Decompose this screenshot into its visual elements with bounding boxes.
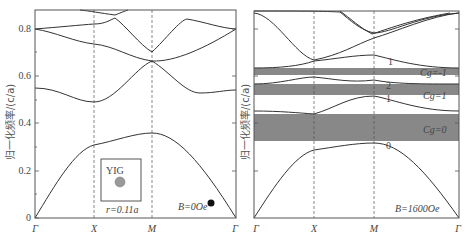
- xtick-m: M: [369, 223, 379, 234]
- band-3: [254, 77, 459, 84]
- band-5: [80, 10, 128, 15]
- xtick-gamma-start: Γ: [31, 223, 38, 234]
- right-y-axis-label: 归一化频率/(c/a): [239, 84, 251, 160]
- xtick-x: X: [90, 223, 98, 234]
- band-4: [35, 18, 236, 52]
- left-plot: YIG r=0.11a B=0Oe 0 0.2 0.4 0.6 0.8 归一化频…: [4, 10, 238, 234]
- xtick-gamma-end: Γ: [454, 223, 461, 234]
- xtick-m: M: [147, 223, 157, 234]
- gap-label-cg-1: Cg=1: [423, 90, 446, 101]
- xtick-gamma-end: Γ: [231, 223, 238, 234]
- band-number-2: 2: [386, 80, 391, 91]
- inset-label: YIG: [106, 165, 124, 176]
- field-label: B=0Oe: [178, 201, 208, 212]
- left-y-axis-label: 归一化频率/(c/a): [4, 84, 16, 160]
- yig-rod-icon: [115, 177, 125, 187]
- band-structure-figure: YIG r=0.11a B=0Oe 0 0.2 0.4 0.6 0.8 归一化频…: [0, 0, 470, 239]
- radius-label: r=0.11a: [106, 204, 138, 215]
- ytick-0.2: 0.2: [19, 165, 32, 176]
- ytick-0.8: 0.8: [19, 23, 32, 34]
- ytick-0: 0: [26, 212, 31, 223]
- xtick-gamma-start: Γ: [252, 223, 259, 234]
- ytick-0.6: 0.6: [19, 70, 32, 81]
- gap-label-cg-minus1: Cg=-1: [420, 67, 447, 78]
- band-3: [35, 29, 236, 61]
- ytick-0.4: 0.4: [19, 117, 32, 128]
- right-plot: 1 2 1 0 Cg=-1 Cg=1 Cg=0 B=1600Oe 归一化频率/(…: [239, 11, 461, 234]
- band-6: [254, 11, 459, 33]
- band-2: [35, 61, 236, 102]
- number-one-marker-icon: [208, 200, 215, 207]
- gap-label-cg-0: Cg=0: [423, 124, 446, 135]
- band-number-1: 1: [386, 93, 391, 104]
- left-axes-frame: [35, 10, 236, 218]
- xtick-x: X: [310, 223, 318, 234]
- band-5: [254, 13, 459, 60]
- band-number-1-upper: 1: [388, 56, 393, 67]
- field-label: B=1600Oe: [395, 203, 440, 214]
- band-number-0: 0: [386, 140, 391, 151]
